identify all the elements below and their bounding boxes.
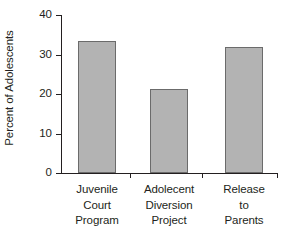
x-label-juvenile-court-program: Juvenile Court Program — [57, 182, 137, 229]
y-tick-label-40: 40 — [39, 7, 52, 22]
x-axis-category-labels: Juvenile Court Program Adolecent Diversi… — [61, 182, 278, 232]
x-tick-boundary-1 — [130, 173, 131, 178]
x-label-adolecent-diversion-project: Adolecent Diversion Project — [129, 182, 209, 229]
plot-area: 40 30 20 10 0 — [61, 15, 278, 173]
x-label-line-1: Release — [204, 182, 284, 198]
y-tick-20: 20 — [56, 94, 61, 95]
y-tick-label-20: 20 — [39, 86, 52, 101]
x-label-line-3: Project — [129, 213, 209, 229]
bar-adolecent-diversion-project — [150, 89, 188, 173]
x-label-line-2: to — [204, 198, 284, 214]
y-tick-label-30: 30 — [39, 47, 52, 62]
y-axis-title: Percent of Adolescents — [2, 8, 16, 168]
bar-juvenile-court-program — [78, 41, 116, 173]
y-tick-10: 10 — [56, 134, 61, 135]
y-tick-30: 30 — [56, 55, 61, 56]
y-tick-label-10: 10 — [39, 126, 52, 141]
bar-chart-figure: Percent of Adolescents 40 30 20 10 0 — [0, 0, 288, 236]
x-label-line-3: Parents — [204, 213, 284, 229]
y-tick-label-0: 0 — [46, 165, 52, 180]
x-label-line-1: Juvenile — [57, 182, 137, 198]
x-label-line-3: Program — [57, 213, 137, 229]
y-axis-line — [61, 15, 62, 174]
y-tick-40: 40 — [56, 15, 61, 16]
x-label-line-1: Adolecent — [129, 182, 209, 198]
x-label-release-to-parents: Release to Parents — [204, 182, 284, 229]
x-label-line-2: Diversion — [129, 198, 209, 214]
x-tick-boundary-2 — [202, 173, 203, 178]
x-label-line-2: Court — [57, 198, 137, 214]
y-tick-0: 0 — [56, 173, 61, 174]
x-axis-line — [61, 173, 278, 174]
bar-release-to-parents — [225, 47, 263, 173]
x-tick-boundary-3 — [277, 173, 278, 178]
